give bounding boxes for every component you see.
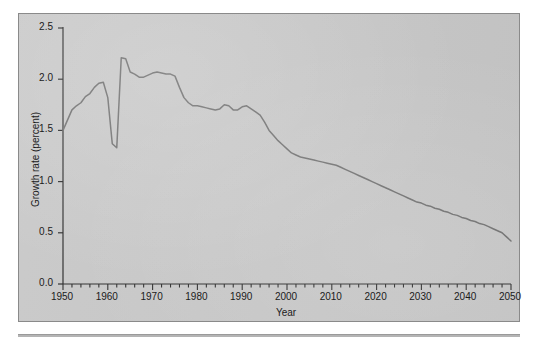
x-tick-label: 1990 bbox=[221, 291, 261, 302]
x-tick-label: 1960 bbox=[87, 291, 127, 302]
chart-plot-svg bbox=[19, 14, 519, 321]
x-tick-label: 1980 bbox=[176, 291, 216, 302]
x-tick-label: 1950 bbox=[42, 291, 82, 302]
chart-plot-frame bbox=[18, 13, 520, 322]
y-tick-label: 0.5 bbox=[31, 226, 53, 237]
y-tick-label: 2.5 bbox=[31, 21, 53, 32]
x-tick-label: 1970 bbox=[132, 291, 172, 302]
x-tick-label: 2010 bbox=[311, 291, 351, 302]
x-tick-label: 2050 bbox=[490, 291, 530, 302]
y-tick-label: 1.0 bbox=[31, 175, 53, 186]
y-tick-label: 1.5 bbox=[31, 123, 53, 134]
x-tick-label: 2000 bbox=[266, 291, 306, 302]
chart-figure: Growth rate (percent) Year 0.00.51.01.52… bbox=[0, 0, 539, 344]
y-tick-label: 0.0 bbox=[31, 277, 53, 288]
figure-bottom-rule bbox=[18, 334, 520, 337]
x-tick-label: 2020 bbox=[356, 291, 396, 302]
y-tick-label: 2.0 bbox=[31, 72, 53, 83]
x-axis-title: Year bbox=[256, 307, 316, 318]
x-tick-label: 2030 bbox=[400, 291, 440, 302]
x-tick-label: 2040 bbox=[445, 291, 485, 302]
